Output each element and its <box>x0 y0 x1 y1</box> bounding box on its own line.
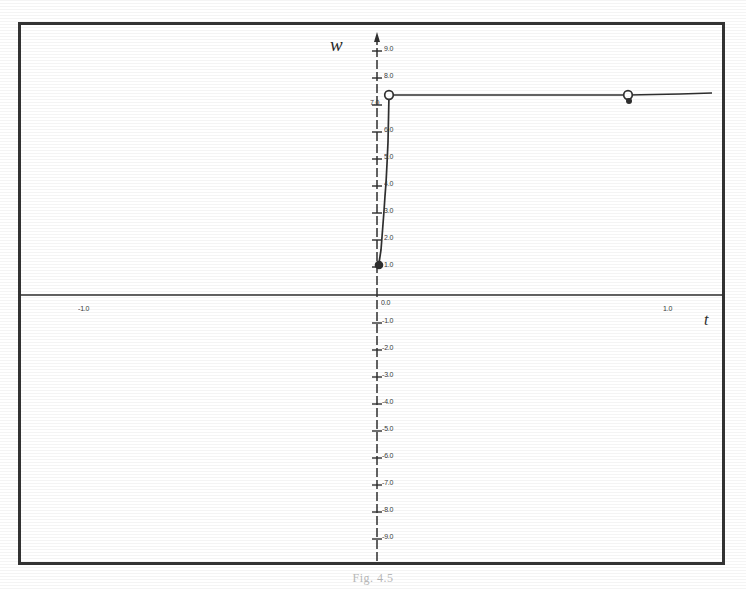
tick-label-y-6: 6.0 <box>384 126 393 133</box>
tick-label-y-neg-5: -5.0 <box>382 425 393 432</box>
tick-label-x-left: -1.0 <box>78 305 89 312</box>
tick-label-y-neg-7: -7.0 <box>382 479 393 486</box>
tick-label-y-neg-9: -9.0 <box>382 533 393 540</box>
tick-label-y-9: 9.0 <box>384 45 393 52</box>
tick-label-y-neg-2: -2.0 <box>382 344 393 351</box>
figure-root: w t 0.0 -1.0 1.0 9.0 8.0 7.0 6.0 5.0 4.0… <box>0 0 746 589</box>
tick-label-y-1: 1.0 <box>384 261 393 268</box>
tick-label-y-neg-3: -3.0 <box>382 371 393 378</box>
tick-label-y-neg-1: -1.0 <box>382 317 393 324</box>
tick-label-y-neg-4: -4.0 <box>382 398 393 405</box>
tick-label-y-neg-8: -8.0 <box>382 506 393 513</box>
tick-label-origin: 0.0 <box>381 299 390 306</box>
tick-label-y-8: 8.0 <box>384 72 393 79</box>
tick-label-y-7: 7.0 <box>370 99 379 106</box>
figure-caption: Fig. 4.5 <box>0 571 746 586</box>
x-axis-label: t <box>704 311 708 329</box>
y-axis-label: w <box>330 34 343 56</box>
tick-label-y-2: 2.0 <box>384 234 393 241</box>
tick-label-x-right: 1.0 <box>663 305 672 312</box>
tick-label-y-neg-6: -6.0 <box>382 452 393 459</box>
tick-label-y-5: 5.0 <box>384 153 393 160</box>
tick-label-y-3: 3.0 <box>384 207 393 214</box>
tick-label-y-4: 4.0 <box>384 180 393 187</box>
